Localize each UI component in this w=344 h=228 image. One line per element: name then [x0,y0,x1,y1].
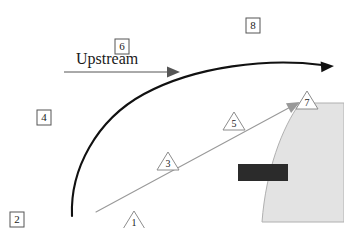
boxed-region-label-text-8: 8 [250,19,256,31]
surface-sensor-bar [238,164,288,181]
blunt-body-shape [262,103,344,222]
upstream-flow-arrowhead [167,67,180,78]
boxed-region-label-text-4: 4 [41,111,47,123]
boxed-region-label-text-2: 2 [14,213,20,225]
triangle-region-label-text-1: 1 [132,217,137,228]
triangle-region-label-text-3: 3 [166,158,171,169]
boxed-region-label-text-6: 6 [119,40,125,52]
diagram-svg: Upstream 2468 1357 [0,0,344,228]
flow-diagram-canvas: Upstream 2468 1357 [0,0,344,228]
triangle-region-label-text-7: 7 [305,97,310,108]
bow-shock-arrowhead [321,61,334,72]
triangle-region-label-text-5: 5 [232,118,237,129]
